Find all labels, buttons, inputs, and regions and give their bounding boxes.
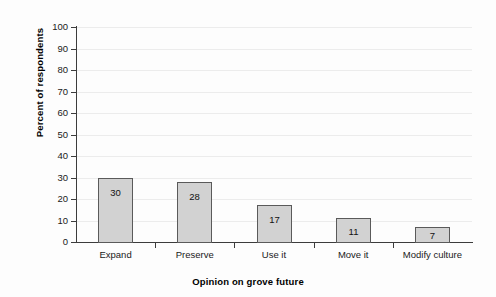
y-axis-tick-label: 50 (40, 130, 68, 140)
bar-value-label: 11 (337, 227, 370, 237)
y-axis-tick-label: 80 (40, 65, 68, 75)
x-axis-tick (314, 243, 315, 248)
bar-value-label: 28 (178, 192, 211, 202)
x-axis-tick-label: Move it (314, 250, 393, 260)
gridline (76, 113, 472, 114)
y-axis-tick-labels: 1009080706050403020100 (39, 0, 68, 297)
bar: 30 (98, 178, 133, 243)
gridline (76, 156, 472, 157)
bar-value-label: 7 (416, 231, 449, 241)
gridline (76, 92, 472, 93)
bar-value-label: 30 (99, 188, 132, 198)
gridline (76, 199, 472, 200)
y-axis-line (76, 26, 77, 243)
x-axis-tick (393, 243, 394, 248)
bar: 7 (415, 227, 450, 243)
y-axis-tick-label: 70 (40, 87, 68, 97)
y-axis-tick-label: 100 (40, 22, 68, 32)
gridline (76, 70, 472, 71)
x-axis-tick-label: Preserve (155, 250, 234, 260)
y-axis-tick-label: 0 (40, 237, 68, 247)
y-axis-tick-label: 20 (40, 194, 68, 204)
y-axis-tick-label: 40 (40, 151, 68, 161)
y-axis-tick-label: 30 (40, 173, 68, 183)
x-axis-title: Opinion on grove future (0, 276, 496, 287)
bar: 11 (336, 218, 371, 243)
x-axis-tick (234, 243, 235, 248)
x-axis-tick (155, 243, 156, 248)
x-axis-tick-label: Modify culture (393, 250, 472, 260)
bar-chart-figure: Percent of respondents 10090807060504030… (0, 0, 496, 297)
bar: 28 (177, 182, 212, 243)
y-axis-tick-label: 60 (40, 108, 68, 118)
y-axis-tick-label: 10 (40, 216, 68, 226)
x-axis-tick-label: Use it (234, 250, 313, 260)
gridline (76, 135, 472, 136)
bar-value-label: 17 (258, 215, 291, 225)
x-axis-tick-label: Expand (76, 250, 155, 260)
gridline (76, 27, 472, 28)
y-axis-tick-label: 90 (40, 44, 68, 54)
bar: 17 (257, 205, 292, 243)
gridline (76, 49, 472, 50)
gridline (76, 178, 472, 179)
